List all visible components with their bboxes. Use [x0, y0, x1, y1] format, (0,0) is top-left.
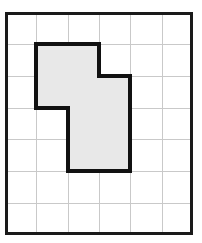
grid-figure [0, 0, 202, 243]
figure-root [0, 0, 202, 243]
